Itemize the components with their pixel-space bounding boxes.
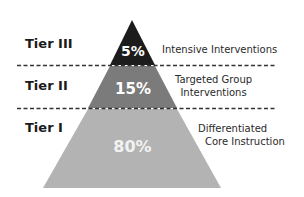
tier-2-description: Targeted Group Interventions — [175, 73, 252, 99]
rti-pyramid-diagram: Tier III Tier II Tier I 5% 15% 80% Inten… — [0, 0, 304, 197]
tier-1-label: Tier I — [25, 120, 63, 135]
tier-3-description: Intensive Interventions — [162, 43, 277, 56]
tier-3-description-line1: Intensive Interventions — [162, 43, 277, 56]
tier-1-description: Differentiated Core Instruction — [198, 122, 285, 148]
tier-2-description-line1: Targeted Group — [175, 73, 252, 86]
tier-1-description-line1: Differentiated — [198, 122, 285, 135]
tier-2-label: Tier II — [25, 78, 68, 93]
tier-3-label: Tier III — [25, 36, 73, 51]
pyramid-graphic — [0, 0, 304, 197]
tier-3-percent: 5% — [112, 43, 154, 59]
tier-2-percent: 15% — [108, 80, 158, 98]
tier-1-percent: 80% — [105, 137, 160, 156]
tier-2-description-line2: Interventions — [175, 86, 252, 99]
tier-1-description-line2: Core Instruction — [198, 135, 285, 148]
